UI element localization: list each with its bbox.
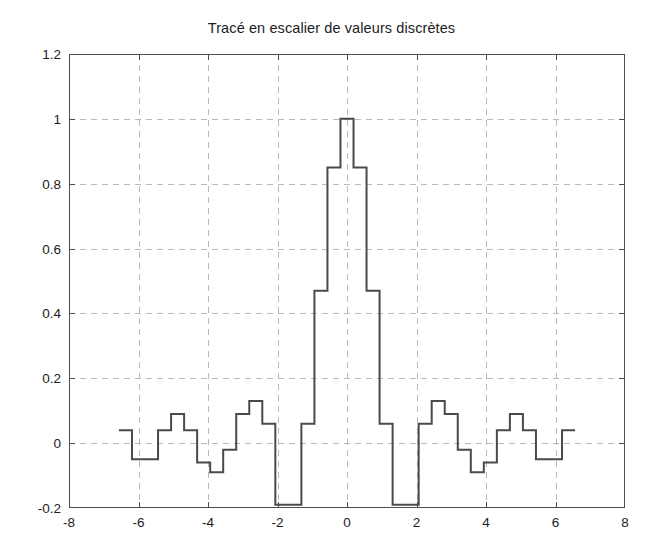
chart-figure: Tracé en escalier de valeurs discrètes 1… — [0, 0, 663, 547]
y-tick-label: -0.2 — [8, 501, 61, 516]
plot-svg — [69, 54, 625, 508]
x-tick-label: -2 — [271, 515, 283, 530]
y-tick-label: 0.4 — [8, 306, 61, 321]
x-tick-label: 6 — [552, 515, 560, 530]
x-tick-label: -8 — [63, 515, 75, 530]
x-tick-label: -6 — [132, 515, 144, 530]
grid-lines — [69, 54, 625, 508]
y-tick-label: 0.2 — [8, 371, 61, 386]
x-tick-label: 2 — [413, 515, 421, 530]
x-tick-label: 0 — [343, 515, 351, 530]
x-tick-label: -4 — [202, 515, 214, 530]
y-tick-label: 0.8 — [8, 176, 61, 191]
y-tick-label: 1 — [8, 111, 61, 126]
y-tick-label: 0 — [8, 436, 61, 451]
x-tick-label: 4 — [482, 515, 490, 530]
y-tick-label: 1.2 — [8, 47, 61, 62]
chart-title: Tracé en escalier de valeurs discrètes — [0, 20, 663, 36]
x-tick-label: 8 — [621, 515, 629, 530]
y-tick-label: 0.6 — [8, 241, 61, 256]
plot-area — [69, 54, 625, 508]
